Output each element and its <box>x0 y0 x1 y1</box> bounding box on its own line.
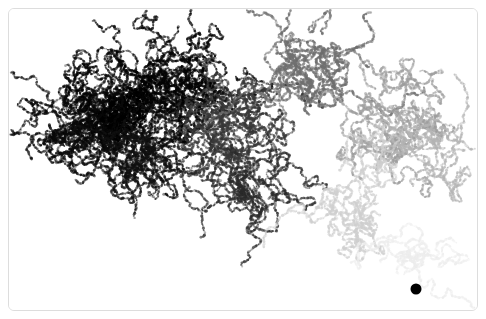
dla-fractal-canvas <box>9 9 477 310</box>
dla-visualization-root <box>0 0 486 319</box>
canvas-frame <box>8 8 478 311</box>
